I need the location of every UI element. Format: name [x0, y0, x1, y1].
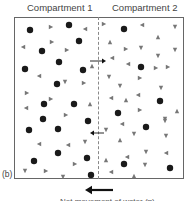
water-triangle [118, 84, 122, 88]
solute-dot [56, 59, 62, 65]
water-triangle [124, 47, 128, 51]
water-triangle [61, 175, 65, 179]
water-triangle [37, 74, 41, 78]
water-triangle [102, 22, 106, 26]
water-triangle [24, 106, 28, 110]
panel-label: (b) [2, 169, 12, 179]
water-triangle [138, 76, 142, 80]
water-triangle [136, 93, 140, 97]
solute-dot [39, 48, 45, 54]
solute-dot [167, 165, 173, 171]
solute-dot [76, 38, 82, 44]
solute-dot [31, 158, 37, 164]
water-triangle [139, 46, 143, 50]
arrow-right-icon [90, 59, 106, 64]
arrow-left-icon [90, 131, 104, 136]
water-triangle [132, 174, 136, 178]
water-triangle [163, 119, 167, 123]
water-triangle [156, 54, 160, 58]
water-triangle [124, 98, 128, 102]
water-triangle [73, 162, 77, 166]
water-triangle [109, 170, 113, 174]
water-triangle [83, 27, 87, 31]
solute-dot [27, 27, 33, 33]
water-triangle [66, 143, 70, 147]
solute-dot [138, 64, 144, 70]
water-triangle [175, 109, 179, 113]
water-triangle [118, 138, 122, 142]
water-triangle [164, 134, 168, 138]
solute-dot [55, 126, 61, 132]
solute-dot [80, 67, 86, 73]
solute-dot [22, 66, 28, 72]
water-triangle [65, 48, 69, 52]
water-triangle [44, 169, 48, 173]
water-triangle [82, 81, 86, 85]
water-triangle [49, 97, 53, 101]
water-triangle [21, 45, 25, 49]
water-triangle [108, 40, 112, 44]
solute-dot [88, 172, 94, 178]
particle-layer [0, 0, 188, 201]
water-triangle [50, 40, 54, 44]
water-triangle [125, 155, 129, 159]
water-triangle [23, 169, 27, 173]
water-triangle [173, 25, 177, 29]
water-triangle [132, 132, 136, 136]
water-triangle [159, 86, 163, 90]
water-triangle [83, 140, 87, 144]
solute-dot [84, 155, 90, 161]
water-triangle [164, 151, 168, 155]
solute-dot [115, 110, 121, 116]
water-triangle [104, 158, 108, 162]
water-triangle [109, 96, 113, 100]
solute-dot [40, 116, 46, 122]
water-triangle [107, 75, 111, 79]
water-triangle [138, 108, 142, 112]
water-triangle [166, 65, 170, 69]
water-triangle [64, 113, 68, 117]
water-triangle [144, 150, 148, 154]
water-triangle [140, 23, 144, 27]
water-triangle [154, 66, 158, 70]
solute-dot [121, 26, 127, 32]
solute-dot [26, 127, 32, 133]
solute-dot [121, 161, 127, 167]
water-triangle [37, 142, 41, 146]
solute-dot [66, 22, 72, 28]
water-triangle [90, 64, 94, 68]
solute-dot [143, 124, 149, 130]
solute-dot [85, 118, 91, 124]
solute-dot [54, 81, 60, 87]
solute-dot [41, 101, 47, 107]
water-triangle [63, 80, 67, 84]
water-triangle [25, 91, 29, 95]
water-triangle [49, 25, 53, 29]
water-triangle [126, 62, 130, 66]
water-triangle [110, 56, 114, 60]
water-triangle [156, 35, 160, 39]
water-triangle [88, 102, 92, 106]
bottom-caption: Net movement of water (≈) [60, 197, 155, 201]
water-triangle [104, 128, 108, 132]
solute-dot [157, 98, 163, 104]
water-triangle [120, 122, 124, 126]
solute-dot [55, 150, 61, 156]
solute-dot [71, 101, 77, 107]
arrow-left-icon [85, 186, 113, 194]
water-triangle [173, 48, 177, 52]
water-triangle [143, 163, 147, 167]
